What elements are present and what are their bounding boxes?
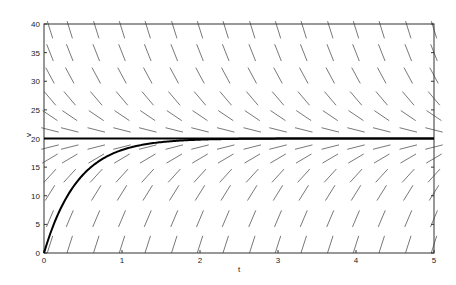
slope-segment <box>250 236 255 253</box>
slope-segment <box>406 236 411 253</box>
slope-segment <box>172 236 177 253</box>
slope-segment <box>222 44 229 61</box>
slope-segment <box>326 68 335 84</box>
x-tick-label: 5 <box>432 256 437 265</box>
slope-segment <box>299 68 308 84</box>
slope-segment <box>195 185 205 200</box>
slope-segment <box>274 210 281 227</box>
slope-segment <box>192 154 207 163</box>
slope-segment <box>222 210 229 227</box>
slope-segment <box>91 185 101 200</box>
slope-segment <box>296 154 311 163</box>
slope-segment <box>246 169 258 182</box>
slope-segment <box>379 236 384 253</box>
slope-segment <box>272 169 284 182</box>
slope-segment <box>270 154 285 163</box>
slope-segment <box>44 92 56 106</box>
curves <box>44 139 434 254</box>
slope-segment <box>90 92 102 106</box>
slope-segment <box>142 169 154 182</box>
slope-segment <box>217 145 234 149</box>
slope-segment <box>269 145 286 149</box>
slope-segment <box>299 185 309 200</box>
slope-segment <box>325 185 335 200</box>
slope-segment <box>221 68 230 84</box>
slope-segment <box>273 185 283 200</box>
slope-segment <box>143 185 153 200</box>
slope-segment <box>296 111 311 121</box>
slope-segment <box>66 210 73 227</box>
y-tick-label: 25 <box>31 106 40 115</box>
slope-field <box>41 21 442 253</box>
slope-segment <box>352 210 359 227</box>
slope-segment <box>323 111 338 121</box>
x-tick-label: 0 <box>42 256 47 265</box>
slope-segment <box>143 68 152 84</box>
slope-segment <box>193 111 208 121</box>
slope-segment <box>404 68 413 84</box>
slope-segment <box>140 154 155 163</box>
y-tick-label: 15 <box>31 163 40 172</box>
slope-segment <box>64 92 76 106</box>
slope-segment <box>300 210 307 227</box>
slope-segment <box>350 92 362 106</box>
slope-segment <box>93 210 100 227</box>
slope-segment <box>373 145 390 149</box>
slope-segment <box>46 68 55 84</box>
slope-segment <box>274 68 283 84</box>
slope-segment <box>139 128 156 132</box>
slope-segment <box>376 92 388 106</box>
slope-segment <box>405 210 412 227</box>
slope-segment <box>47 44 54 61</box>
slope-segment <box>61 145 78 149</box>
slope-segment <box>61 128 78 132</box>
slope-segment <box>144 44 151 61</box>
slope-segment <box>191 145 208 149</box>
slope-segment <box>167 154 182 163</box>
slope-segment <box>168 169 180 182</box>
slope-segment <box>322 128 339 132</box>
slope-segment <box>300 44 307 61</box>
slope-segment <box>194 169 206 182</box>
slope-segment <box>350 169 362 182</box>
slope-segment <box>347 128 364 132</box>
slope-segment <box>377 185 387 200</box>
slope-segment <box>171 44 178 61</box>
slope-segment <box>244 128 261 132</box>
slope-segment <box>64 169 76 182</box>
slope-segment <box>298 92 310 106</box>
slope-segment <box>65 68 74 84</box>
slope-segment <box>351 185 361 200</box>
slope-segment <box>167 111 182 121</box>
slope-segment <box>374 111 389 121</box>
slope-segment <box>218 111 233 121</box>
slope-segment <box>166 128 183 132</box>
slope-segment <box>324 169 336 182</box>
slope-segment <box>378 44 385 61</box>
slope-segment <box>44 169 56 182</box>
y-tick-label: 10 <box>31 192 40 201</box>
slope-segment <box>271 111 286 121</box>
y-axis-label: v <box>24 133 33 137</box>
slope-segment <box>328 236 333 253</box>
slope-segment <box>197 44 204 61</box>
axis-ticks: 0123450510152025303540 <box>31 20 437 265</box>
slope-segment <box>400 145 417 149</box>
slope-segment <box>301 236 306 253</box>
slope-segment <box>298 169 310 182</box>
slope-segment <box>353 44 360 61</box>
slope-segment <box>94 236 99 253</box>
slope-segment <box>142 92 154 106</box>
slope-segment <box>244 145 261 149</box>
slope-segment <box>144 210 151 227</box>
slope-segment <box>46 210 53 227</box>
slope-segment <box>88 145 105 149</box>
slope-segment <box>378 210 385 227</box>
slope-segment <box>45 185 55 200</box>
slope-segment <box>352 68 361 84</box>
slope-segment <box>349 111 364 121</box>
slope-segment <box>170 68 179 84</box>
slope-segment <box>246 92 258 106</box>
slope-segment <box>324 92 336 106</box>
slope-segment <box>115 111 130 121</box>
